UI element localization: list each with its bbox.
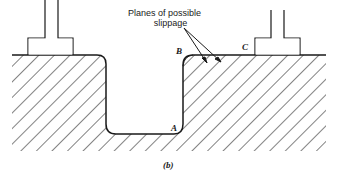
hatched-soil — [0, 50, 338, 155]
figure-caption: (b) — [163, 160, 174, 170]
annotation-line-1: Planes of possible — [128, 8, 201, 18]
point-label-c: C — [242, 42, 248, 52]
point-label-b: B — [176, 46, 182, 56]
slippage-annotation: Planes of possible slippage — [128, 8, 201, 28]
annotation-line-2: slippage — [128, 18, 201, 28]
point-label-a: A — [171, 123, 177, 133]
